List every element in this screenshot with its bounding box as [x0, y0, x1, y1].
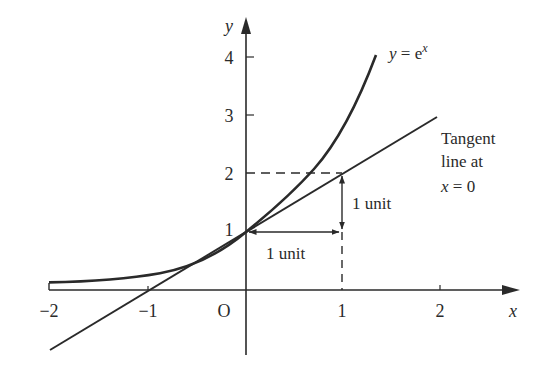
tick-y-1: 1 — [225, 220, 234, 240]
chart: −2 −1 O 1 2 x 1 2 3 4 y 1 unit 1 unit 1 … — [0, 0, 547, 368]
tick-x-1: 1 — [338, 301, 347, 321]
vertical-unit-label: 1 unit — [352, 194, 391, 213]
y-axis-arrow-icon — [241, 17, 251, 34]
tangent-label-line1: Tangent — [441, 129, 496, 148]
tick-y-4: 4 — [225, 48, 234, 68]
tick-x-2: 2 — [436, 301, 445, 321]
x-axis — [49, 283, 520, 295]
exponential-curve-path — [49, 55, 376, 282]
x-axis-label: x — [508, 301, 517, 321]
y-axis-label: y — [223, 16, 233, 36]
tangent-label-line3: x = 0 — [440, 177, 475, 196]
origin-label: O — [218, 301, 231, 321]
tangent-label-line2: line at — [441, 152, 483, 171]
tick-y-2: 2 — [225, 164, 234, 184]
horizontal-unit-label-text: 1 unit — [266, 244, 305, 263]
tick-x-minus-2: −2 — [39, 301, 58, 321]
unit-arrows — [249, 176, 342, 232]
curve-label: y = ex — [387, 41, 428, 63]
tick-x-minus-1: −1 — [138, 301, 157, 321]
annotation-labels: 1 unit 1 unit 1 unit y = ex Tangent line… — [266, 41, 496, 263]
x-axis-arrow-icon — [502, 285, 520, 295]
tick-y-3: 3 — [225, 106, 234, 126]
y-axis — [241, 17, 254, 355]
